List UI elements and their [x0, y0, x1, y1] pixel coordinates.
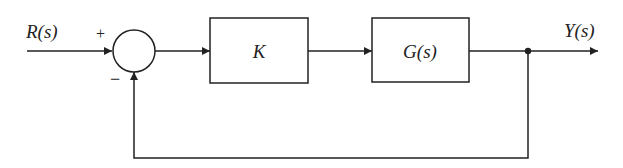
summing-junction: [113, 30, 155, 72]
input-label: R(s): [25, 21, 58, 43]
minus-sign: −: [110, 69, 120, 89]
controller-label: K: [252, 41, 267, 62]
plus-sign: +: [96, 25, 105, 42]
plant-label: G(s): [403, 41, 437, 63]
block-diagram: R(s) + − K G(s) Y(s): [0, 0, 623, 168]
output-label: Y(s): [564, 20, 595, 42]
